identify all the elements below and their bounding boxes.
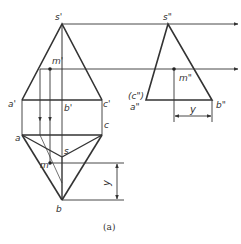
label-s-prime: s': [55, 12, 62, 22]
label-a-double-prime: a": [130, 102, 140, 112]
label-c-double-prime: (c"): [128, 91, 144, 101]
top-view: [22, 135, 124, 200]
label-b-prime: b': [64, 103, 72, 113]
label-c: c: [104, 120, 109, 130]
point-m-double-prime: [172, 67, 176, 71]
label-a-prime: a': [8, 99, 16, 109]
label-a: a: [15, 133, 21, 143]
projection-diagram: s' m' a' b' c' s" m" (c") a" b" y a: [0, 0, 241, 244]
label-b-double-prime: b": [216, 100, 226, 110]
label-m-double-prime: m": [179, 73, 192, 83]
label-c-prime: c': [103, 99, 110, 109]
top-edge-cb: [62, 135, 102, 200]
top-dimension-y: y: [101, 179, 112, 187]
figure-caption: (a): [103, 222, 115, 232]
side-triangle: [146, 24, 212, 100]
label-b: b: [56, 204, 62, 214]
label-s: s: [64, 146, 69, 156]
top-auxiliary-line: [40, 135, 62, 183]
side-dimension-y: y: [189, 104, 197, 115]
label-m: m: [40, 160, 49, 170]
label-m-prime: m': [52, 56, 63, 66]
label-s-double-prime: s": [163, 12, 172, 22]
